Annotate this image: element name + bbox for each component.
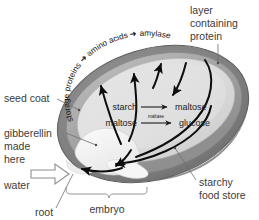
water-block-arrow [31, 164, 69, 184]
reaction-0-product: maltose [175, 102, 207, 112]
layer-containing-protein-line-1: containing [190, 17, 238, 29]
reaction-0-substrate: starch [112, 102, 137, 112]
diagram-canvas: storage proteins ➜ amino acids ➜ amylase [0, 0, 259, 220]
water-label: water [3, 179, 30, 191]
reaction-1-enzyme: maltase [148, 114, 165, 119]
layer-containing-protein-line-2: protein [190, 30, 222, 42]
leader-dot-gibberellin [95, 144, 97, 146]
reaction-1-substrate: maltose [105, 118, 137, 128]
embryo-label: embryo [89, 203, 124, 215]
embryo-brace [66, 187, 147, 198]
label-root: root [35, 174, 73, 218]
starchy-food-store-line-0: starchy [199, 176, 234, 188]
seed-germination-diagram: storage proteins ➜ amino acids ➜ amylase [0, 0, 259, 220]
label-embryo: embryo [66, 187, 147, 215]
root-label: root [35, 206, 53, 218]
gibberellin-line-2: here [4, 153, 25, 165]
leader-dot-layer-protein [217, 62, 219, 64]
water-entry: water [3, 164, 69, 191]
reaction-1-product: glucose [179, 118, 210, 128]
leader-dot-starchy-food-store [174, 147, 176, 149]
starchy-food-store-line-1: food store [199, 189, 246, 201]
seed-coat-label: seed coat [4, 92, 50, 104]
leader-dot-seed-coat [78, 109, 80, 111]
layer-containing-protein-line-0: layer [190, 4, 213, 16]
gibberellin-line-1: made [4, 140, 30, 152]
gibberellin-line-0: gibberellin [4, 127, 52, 139]
